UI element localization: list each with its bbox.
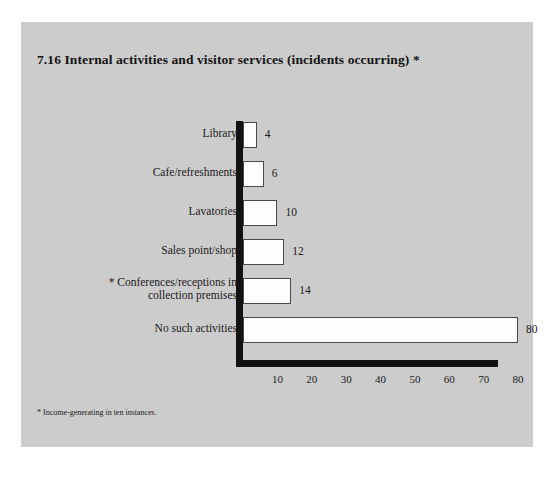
- bar-value-label: 12: [292, 245, 304, 257]
- bar: [243, 317, 518, 343]
- x-axis-tick-label: 10: [264, 373, 290, 385]
- x-axis-tick-label: 80: [505, 373, 531, 385]
- bar-row: No such activities80: [21, 317, 533, 343]
- bar: [243, 122, 257, 148]
- bar: [243, 239, 284, 265]
- bar: [243, 278, 291, 304]
- bar: [243, 161, 264, 187]
- x-axis-tick-label: 70: [471, 373, 497, 385]
- bar-row: Sales point/shop12: [21, 239, 533, 265]
- figure-panel: 7.16 Internal activities and visitor ser…: [21, 22, 533, 447]
- x-axis-tick-labels: 1020304050607080: [21, 373, 533, 391]
- bar-value-label: 10: [285, 206, 297, 218]
- bar-value-label: 80: [526, 323, 538, 335]
- bar-row: Cafe/refreshments6: [21, 161, 533, 187]
- bar-value-label: 6: [272, 167, 278, 179]
- bar-category-label: Lavatories: [17, 205, 237, 218]
- bar-category-label: Cafe/refreshments: [17, 166, 237, 179]
- bar: [243, 200, 277, 226]
- x-axis-tick-label: 30: [333, 373, 359, 385]
- bar-value-label: 4: [265, 128, 271, 140]
- chart-footnote: * Income-generating in ten instances.: [37, 408, 157, 417]
- bar-row: Library4: [21, 122, 533, 148]
- bar-row: Lavatories10: [21, 200, 533, 226]
- x-axis-tick-label: 50: [402, 373, 428, 385]
- x-axis-tick-label: 40: [368, 373, 394, 385]
- bar-value-label: 14: [299, 284, 311, 296]
- x-axis-tick-label: 20: [299, 373, 325, 385]
- chart-title: 7.16 Internal activities and visitor ser…: [37, 52, 420, 68]
- x-axis-tick-label: 60: [436, 373, 462, 385]
- bar-category-label: No such activities: [17, 322, 237, 335]
- bar-row: * Conferences/receptions incollection pr…: [21, 278, 533, 304]
- bar-category-label: * Conferences/receptions incollection pr…: [17, 276, 237, 302]
- x-axis-spine: [236, 360, 498, 367]
- bar-category-label: Sales point/shop: [17, 244, 237, 257]
- plot-area: Library4Cafe/refreshments6Lavatories10Sa…: [21, 117, 533, 387]
- bar-category-label: Library: [17, 127, 237, 140]
